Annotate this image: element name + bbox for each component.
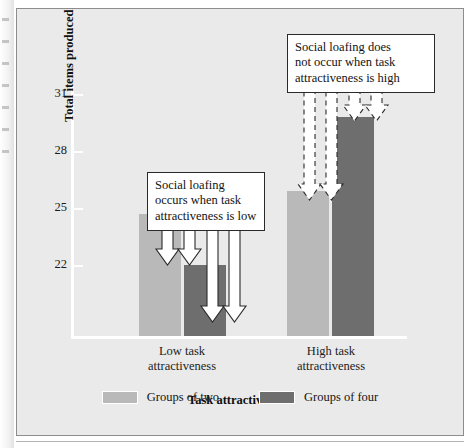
callout-high-line2: not occur when task bbox=[295, 55, 427, 70]
callout-high-line3: attractiveness is high bbox=[295, 71, 427, 86]
callout-low-task: Social loafing occurs when task attracti… bbox=[147, 172, 265, 231]
arrow-high-to-dark bbox=[343, 91, 366, 121]
callout-low-line3: attractiveness is low bbox=[155, 209, 257, 224]
callout-low-line1: Social loafing bbox=[155, 178, 257, 193]
arrow-high-to-light-2 bbox=[320, 91, 343, 200]
legend-swatch-light bbox=[102, 391, 138, 404]
legend: Groups of two Groups of four bbox=[17, 390, 463, 405]
legend-swatch-dark bbox=[259, 391, 295, 404]
legend-item-groups-of-four: Groups of four bbox=[259, 390, 378, 405]
legend-label-groups-of-four: Groups of four bbox=[304, 390, 378, 405]
callout-low-line2: occurs when task bbox=[155, 193, 257, 208]
legend-label-groups-of-two: Groups of two bbox=[147, 390, 219, 405]
callout-high-task: Social loafing does not occur when task … bbox=[287, 34, 435, 93]
scanned-page-edge bbox=[0, 0, 14, 448]
page-bottom-rule bbox=[16, 441, 464, 442]
arrow-high-to-light bbox=[298, 91, 321, 200]
callout-high-line1: Social loafing does bbox=[295, 40, 427, 55]
figure-panel: 31 28 25 22 Low task attractiveness bbox=[17, 9, 463, 435]
arrow-high-to-dark-2 bbox=[365, 91, 388, 121]
figure-frame: 31 28 25 22 Low task attractiveness bbox=[16, 8, 464, 436]
legend-item-groups-of-two: Groups of two bbox=[102, 390, 219, 405]
